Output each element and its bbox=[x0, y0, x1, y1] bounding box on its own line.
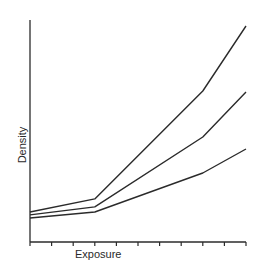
data-lines bbox=[30, 26, 246, 218]
x-axis-label: Exposure bbox=[75, 248, 121, 260]
series-line-curve-top bbox=[30, 26, 246, 212]
chart-plot bbox=[0, 0, 267, 272]
axes bbox=[30, 20, 246, 242]
y-axis-label: Density bbox=[16, 127, 28, 164]
series-line-curve-bottom bbox=[30, 149, 246, 218]
